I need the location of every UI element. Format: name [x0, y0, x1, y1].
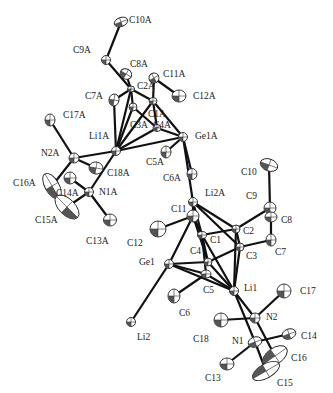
atom-C12 [150, 221, 166, 237]
atom-label: C15A [35, 215, 58, 225]
atom-C5 [201, 270, 211, 278]
atom-label: C4 [190, 246, 201, 256]
atom-N1A [85, 188, 94, 197]
atom-label: C3A [130, 120, 148, 130]
atom-C13A [104, 214, 117, 226]
atom-Li1 [230, 287, 239, 296]
atom-C3 [236, 243, 244, 251]
atom-label: C12A [193, 91, 216, 101]
atom-label: C18 [193, 334, 209, 344]
atom-label: C2A [137, 81, 155, 91]
atom-label: C7 [275, 247, 286, 257]
atom-Li1A [112, 147, 121, 156]
atom-label: C10 [241, 167, 257, 177]
bond-C10A-C9A [106, 22, 121, 60]
crystal-structure-figure: C10AC9AC8AC11AC12AC2AC7AC1AC3AC4AGe1AC17… [0, 0, 333, 393]
bond-Li1A-N2A [74, 151, 116, 158]
atom-C14A [64, 172, 76, 184]
atom-Li2A [189, 198, 198, 207]
atom-label: C9 [246, 191, 257, 201]
atom-label: C17 [300, 286, 316, 296]
atom-C2 [232, 225, 240, 233]
atom-label: C14 [301, 331, 317, 341]
atom-label: C11A [163, 69, 185, 79]
atom-label: C10A [129, 15, 152, 25]
atom-label: C8A [130, 59, 148, 69]
ortep-diagram: C10AC9AC8AC11AC12AC2AC7AC1AC3AC4AGe1AC17… [0, 0, 333, 393]
atom-Ge1A [179, 133, 188, 142]
atom-label: C16 [291, 353, 307, 363]
atom-C1 [198, 232, 207, 239]
atom-label: C8 [281, 215, 292, 225]
atom-label: N2 [266, 312, 278, 322]
atom-label: C12 [127, 238, 143, 248]
atom-label: C14A [56, 188, 79, 198]
atom-C10A [113, 15, 129, 28]
atom-label: C2 [243, 226, 254, 236]
bond-Ge1-Li2 [131, 264, 169, 322]
atom-C1A [149, 98, 157, 105]
atom-label: C18A [107, 168, 130, 178]
atom-label: C9A [73, 45, 91, 55]
atom-label: Li2A [205, 188, 225, 198]
atom-C17 [277, 284, 291, 298]
atom-label: C16A [13, 178, 36, 188]
atom-C7A [108, 93, 120, 107]
atom-C8 [265, 212, 277, 222]
atom-label: N2A [41, 148, 60, 158]
atom-Ge1 [165, 260, 174, 269]
atom-C11 [187, 210, 199, 222]
atom-label: C1A [148, 109, 166, 119]
atom-label: C13 [205, 373, 221, 383]
atom-label: Li2 [137, 332, 150, 342]
atom-label: C13A [86, 236, 109, 246]
atom-label: C7A [85, 91, 103, 101]
atom-label: C5 [203, 285, 214, 295]
atom-C18 [214, 313, 228, 327]
atom-label: C5A [146, 157, 164, 167]
atom-C3A [129, 103, 137, 111]
atom-C2A [128, 86, 135, 92]
atom-label: C6 [179, 308, 190, 318]
atom-C10 [258, 156, 279, 173]
atom-C7 [266, 234, 276, 246]
atom-label: N1 [232, 336, 244, 346]
atom-label: C1 [210, 235, 221, 245]
atom-label: C17A [63, 110, 86, 120]
atom-label: C4A [153, 120, 171, 130]
atom-label: C15 [277, 378, 293, 388]
atom-Li2 [127, 318, 136, 327]
atom-label: Ge1 [139, 257, 155, 267]
atom-label: Li1A [89, 131, 109, 141]
atom-C14 [281, 327, 298, 341]
atom-C13 [220, 358, 234, 370]
atom-N2 [250, 313, 260, 323]
atom-label: Li1 [244, 283, 257, 293]
atom-label: Ge1A [195, 131, 218, 141]
atom-label: C3 [246, 251, 257, 261]
atom-C9A [102, 56, 111, 65]
atom-C12A [172, 90, 186, 102]
bond-C4-Ge1 [169, 262, 208, 264]
atom-N2A [69, 153, 79, 163]
atom-label: C6A [163, 173, 181, 183]
atom-C17A [45, 114, 55, 126]
atom-C4 [204, 258, 212, 266]
atom-C6A [187, 169, 197, 180]
atom-label: C11 [171, 204, 187, 214]
bond-Li1A-C7A [114, 100, 116, 151]
atom-label: N1A [99, 187, 118, 197]
atom-C6 [168, 289, 180, 303]
